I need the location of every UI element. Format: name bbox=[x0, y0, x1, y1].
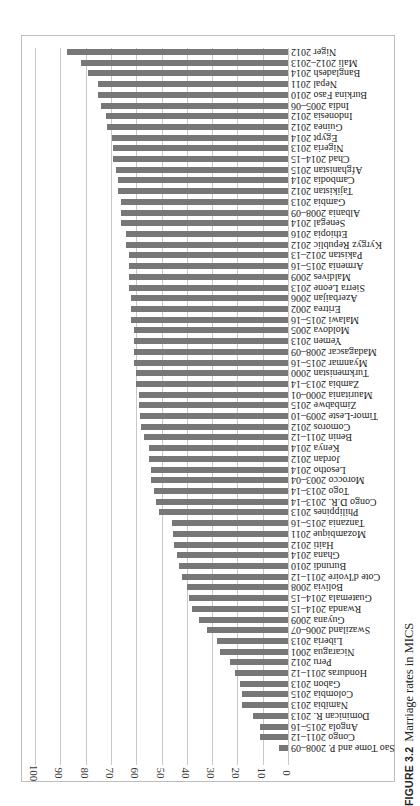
bar bbox=[113, 156, 288, 162]
bar bbox=[260, 724, 288, 730]
bar bbox=[134, 338, 288, 344]
gridline-90 bbox=[60, 48, 61, 765]
bar bbox=[121, 220, 288, 226]
bar bbox=[156, 499, 288, 505]
bar bbox=[116, 167, 288, 173]
bar bbox=[182, 574, 288, 580]
gridline-80 bbox=[86, 48, 87, 765]
category-label: Togo 2013–14 bbox=[291, 486, 349, 496]
category-label: Cambodia 2014 bbox=[291, 176, 355, 186]
bar bbox=[101, 103, 288, 109]
category-label: Guinea 2012 bbox=[291, 122, 342, 132]
figure-caption-text: Marriage rates in MICS bbox=[402, 623, 416, 742]
category-label: Nicaragua 2001 bbox=[291, 647, 355, 657]
bar bbox=[121, 210, 288, 216]
bar bbox=[154, 488, 288, 494]
bar bbox=[81, 60, 288, 66]
bar bbox=[187, 584, 288, 590]
bar bbox=[134, 360, 288, 366]
category-label: Sao Tome and P. 2008–09 bbox=[291, 743, 395, 753]
category-label: Peru 2012 bbox=[291, 657, 332, 667]
category-label: Myanmar 2015–16 bbox=[291, 358, 367, 368]
category-label: Senegal 2014 bbox=[291, 218, 345, 228]
bar bbox=[149, 445, 288, 451]
figure-number: FIGURE 3.2 bbox=[403, 747, 415, 806]
bar bbox=[131, 317, 288, 323]
category-label: Indonesia 2012 bbox=[291, 111, 352, 121]
category-label: Cote d'Ivoire 2011–12 bbox=[291, 572, 380, 582]
category-label: Malawi 2015–16 bbox=[291, 315, 359, 325]
tick-label: 80 bbox=[79, 761, 91, 785]
category-label: Zambia 2013–14 bbox=[291, 379, 359, 389]
tick-label: 30 bbox=[205, 761, 217, 785]
category-label: Honduras 2011–12 bbox=[291, 668, 367, 678]
category-label: Yemen 2013 bbox=[291, 336, 341, 346]
category-label: Nepal 2011 bbox=[291, 79, 337, 89]
tick-label: 10 bbox=[256, 761, 268, 785]
rotated-chart-canvas: 0102030405060708090100 Sao Tome and P. 2… bbox=[22, 36, 396, 783]
category-label: Ethiopia 2016 bbox=[291, 229, 347, 239]
bar bbox=[240, 681, 288, 687]
category-label: Swaziland 2006–07 bbox=[291, 625, 370, 635]
category-label: Comoros 2012 bbox=[291, 422, 350, 432]
bar bbox=[149, 456, 288, 462]
bar bbox=[172, 520, 288, 526]
tick-label: 20 bbox=[230, 761, 242, 785]
category-label: Niger 2012 bbox=[291, 47, 336, 57]
category-label: Namibia 2013 bbox=[291, 700, 348, 710]
category-label: Congo D.R. 2013–14 bbox=[291, 497, 377, 507]
bar bbox=[174, 542, 288, 548]
category-label: Burkina Faso 2010 bbox=[291, 90, 367, 100]
bar bbox=[217, 638, 288, 644]
bar bbox=[173, 531, 288, 537]
bar bbox=[129, 252, 288, 258]
category-label: Madagascar 2008–09 bbox=[291, 347, 377, 357]
bar bbox=[136, 370, 288, 376]
bar bbox=[230, 659, 288, 665]
bar bbox=[129, 285, 288, 291]
category-label: Pakistan 2012–13 bbox=[291, 250, 362, 260]
bar bbox=[151, 467, 288, 473]
category-label: Kenya 2014 bbox=[291, 443, 340, 453]
category-label: Philippines 2013 bbox=[291, 507, 359, 517]
category-label: Zimbabwe 2015 bbox=[291, 400, 356, 410]
bar bbox=[134, 327, 288, 333]
category-label: Burundi 2010 bbox=[291, 561, 346, 571]
bar bbox=[140, 413, 288, 419]
tick-label: 50 bbox=[155, 761, 167, 785]
category-label: Guatemala 2014–15 bbox=[291, 593, 372, 603]
category-label: Lesotho 2014 bbox=[291, 465, 346, 475]
category-label: Morocco 2003–04 bbox=[291, 475, 365, 485]
category-label: Maldives 2009 bbox=[291, 272, 351, 282]
category-label: Nigeria 2013 bbox=[291, 143, 344, 153]
category-label: Rwanda 2014–15 bbox=[291, 604, 361, 614]
bar bbox=[112, 135, 288, 141]
bar bbox=[134, 349, 288, 355]
chart-frame: 0102030405060708090100 Sao Tome and P. 2… bbox=[21, 35, 395, 782]
category-label: Turkmenistan 2000 bbox=[291, 368, 369, 378]
bar bbox=[98, 81, 288, 87]
bar bbox=[242, 691, 288, 697]
category-label: Liberia 2013 bbox=[291, 636, 342, 646]
category-label: Armenia 2015–16 bbox=[291, 261, 364, 271]
category-label: Chad 2014–15 bbox=[291, 154, 350, 164]
bar bbox=[98, 92, 288, 98]
tick-label: 0 bbox=[281, 761, 293, 785]
category-label: Eritrea 2002 bbox=[291, 304, 341, 314]
category-label: Tanzania 2015–16 bbox=[291, 518, 364, 528]
category-label: Albania 2008–09 bbox=[291, 208, 360, 218]
category-label: Tajikistan 2012 bbox=[291, 186, 353, 196]
category-label: Angola 2015–16 bbox=[291, 722, 358, 732]
category-label: Colombia 2015 bbox=[291, 689, 353, 699]
bar bbox=[144, 434, 288, 440]
bar bbox=[242, 702, 288, 708]
category-label: Jordan 2012 bbox=[291, 454, 340, 464]
category-label: Benin 2011–12 bbox=[291, 432, 352, 442]
category-label: Timor-Leste 2009–10 bbox=[291, 411, 378, 421]
bar bbox=[129, 274, 288, 280]
bar bbox=[118, 188, 288, 194]
category-label: Ghana 2014 bbox=[291, 550, 340, 560]
bar bbox=[151, 477, 288, 483]
bar bbox=[253, 713, 288, 719]
category-label: Mozambique 2011 bbox=[291, 529, 366, 539]
